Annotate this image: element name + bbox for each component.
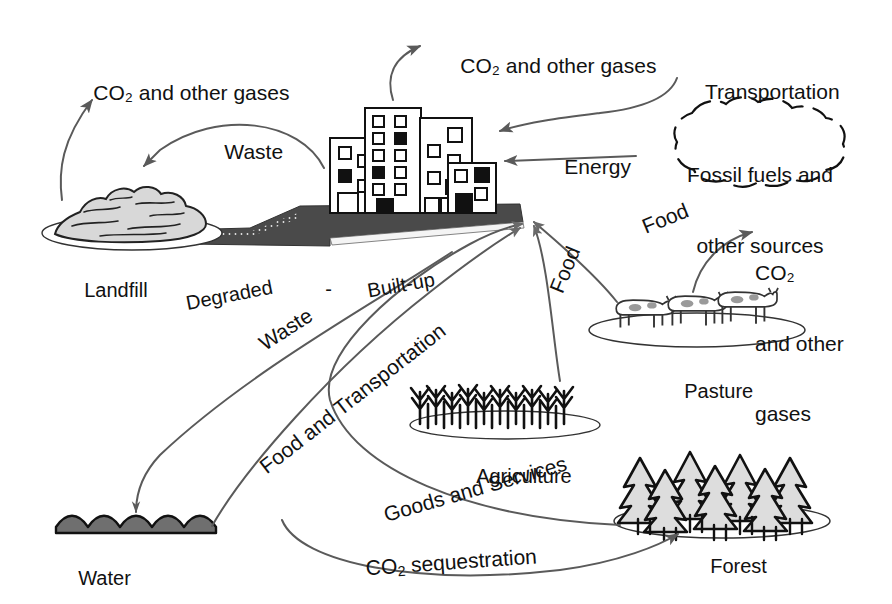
landfill-mound-icon [42, 187, 222, 250]
emit-pasture-label: CO₂ and other gases [755, 214, 844, 473]
flow-line-emit-city [390, 46, 420, 100]
landfill-label: Landfill [62, 257, 148, 324]
emit-pasture-line3: gases [755, 402, 844, 426]
water-label: Water [56, 545, 131, 604]
city-buildings-icon [330, 108, 496, 213]
pasture-label: Pasture [662, 358, 753, 425]
emit-pasture-line2: and other [755, 332, 844, 356]
diagram-canvas: CO₂ and other gases CO₂ and other gases … [0, 0, 892, 604]
waste-top-label: Waste [201, 116, 283, 187]
energy-label: Energy [541, 131, 631, 202]
agriculture-label: Agriculture [455, 443, 572, 510]
fossil-fuels-line1: Fossil fuels and [672, 163, 848, 187]
crop-field-icon [410, 385, 600, 439]
emit-city-label: CO₂ and other gases [437, 30, 656, 101]
forest-label: Forest [688, 533, 767, 600]
water-waves-icon [56, 516, 216, 533]
co2-sequestration-label: CO2 sequestration [340, 520, 539, 604]
degraded-builtup-dash: - [303, 256, 332, 323]
emit-pasture-line1: CO₂ [755, 261, 844, 285]
